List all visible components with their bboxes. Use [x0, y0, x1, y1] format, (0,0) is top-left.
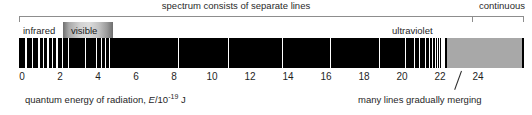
spectral-line	[68, 38, 69, 68]
caption-merging: many lines gradually merging	[358, 94, 482, 106]
axis-caption-exponent: -19	[168, 93, 178, 100]
top-rule	[19, 16, 524, 17]
axis-tick-label: 24	[466, 71, 490, 83]
band-label-infrared: infrared	[23, 25, 55, 36]
axis-tick-label: 4	[86, 71, 110, 83]
axis-tick-label: 10	[200, 71, 224, 83]
spectral-line	[38, 38, 40, 68]
axis-caption-prefix: quantum energy of radiation,	[25, 94, 149, 105]
axis-tick-label: 8	[162, 71, 186, 83]
spectral-line	[62, 38, 63, 68]
spectral-line	[96, 38, 97, 68]
spectral-line	[101, 38, 102, 68]
spectral-line	[56, 38, 58, 68]
spectral-line	[52, 38, 53, 68]
spectral-line	[444, 38, 445, 68]
caption-separate-lines: spectrum consists of separate lines	[0, 0, 472, 11]
band-label-ultraviolet: ultraviolet	[392, 25, 433, 36]
continuum-block	[447, 38, 522, 68]
spectral-line	[379, 38, 380, 68]
axis-caption-unit: /10	[155, 94, 168, 105]
band-label-visible: visible	[71, 25, 97, 36]
spectral-line	[330, 38, 331, 68]
axis-tick-label: 16	[314, 71, 338, 83]
spectral-line	[282, 38, 283, 68]
axis-caption-suffix: J	[178, 94, 185, 105]
merging-leader-line	[454, 71, 462, 90]
rule-tick-middle	[472, 16, 473, 22]
spectral-line	[429, 38, 430, 68]
axis-line	[19, 68, 524, 69]
spectral-line	[425, 38, 426, 68]
spectral-line	[105, 38, 106, 68]
axis-tick-label: 20	[390, 71, 414, 83]
spectral-line	[432, 38, 433, 68]
axis-tick-label: 22	[428, 71, 452, 83]
axis-caption: quantum energy of radiation, E/10-19 J	[25, 91, 186, 106]
spectral-line	[47, 38, 49, 68]
axis-tick-label: 6	[124, 71, 148, 83]
spectral-line	[109, 38, 110, 68]
spectrum-figure: spectrum consists of separate lines cont…	[0, 0, 532, 115]
axis-tick-label: 12	[238, 71, 262, 83]
spectral-line	[437, 38, 438, 68]
spectral-line	[43, 38, 44, 68]
spectral-line	[85, 38, 86, 68]
spectral-line	[32, 38, 33, 68]
axis-tick-label: 2	[48, 71, 72, 83]
spectral-line	[405, 38, 406, 68]
axis-tick-label: 0	[10, 71, 34, 83]
spectral-line	[178, 38, 179, 68]
axis-tick-label: 14	[276, 71, 300, 83]
spectral-line	[414, 38, 415, 68]
spectral-line	[25, 38, 27, 68]
rule-tick-right	[523, 16, 524, 22]
rule-tick-left	[19, 16, 20, 22]
caption-continuous: continuous	[472, 0, 532, 11]
spectral-line	[435, 38, 436, 68]
axis-tick-label: 18	[352, 71, 376, 83]
spectral-line	[228, 38, 229, 68]
spectrum-bar	[19, 38, 524, 68]
spectral-line	[419, 38, 420, 68]
